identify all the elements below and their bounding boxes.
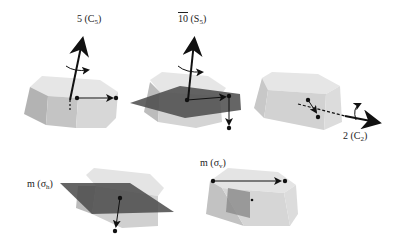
label-sigma-v: m (σv) [200,158,226,170]
label-sigma-h: m (σh) [27,179,53,191]
label-c5: 5 (C5) [77,14,101,26]
label-c2: 2 (C2) [343,131,367,143]
symmetry-diagram [0,0,397,247]
prism-sigma-v [206,168,298,226]
prism-c2 [254,72,342,130]
label-s5: 10 (S5) [178,14,206,26]
prism-c5 [24,76,118,128]
rotation-arrow-icon [178,66,202,72]
